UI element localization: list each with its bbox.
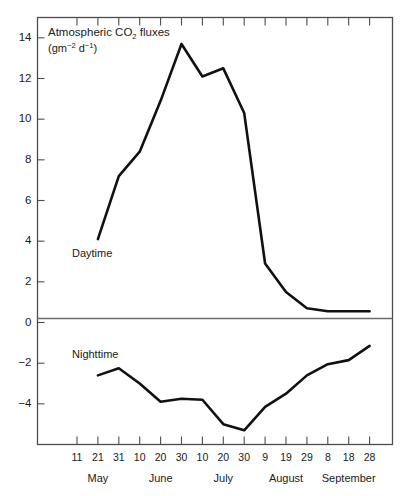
x-tick-label: 28 xyxy=(364,451,376,463)
co2-flux-line-chart: 1121311020301020309192981828 MayJuneJuly… xyxy=(0,0,414,496)
x-tick-label: 31 xyxy=(113,451,125,463)
y-axis-tick-labels: 14121086420−2−4 xyxy=(18,31,32,409)
x-month-label: August xyxy=(269,472,303,484)
y-tick-label: −4 xyxy=(18,397,32,409)
x-month-label: July xyxy=(214,472,234,484)
x-tick-label: 8 xyxy=(325,451,331,463)
x-tick-label: 18 xyxy=(343,451,355,463)
x-tick-label: 20 xyxy=(155,451,167,463)
y-tick-label: 2 xyxy=(25,275,31,287)
plot-frame xyxy=(38,18,393,445)
units-b: d xyxy=(76,42,85,54)
y-tick-label: 6 xyxy=(25,194,31,206)
x-tick-label: 10 xyxy=(197,451,209,463)
units-sup2: −1 xyxy=(85,41,94,50)
x-tick-label: 30 xyxy=(176,451,188,463)
x-month-label: September xyxy=(322,472,376,484)
series-line-daytime xyxy=(98,44,370,311)
y-tick-label: 8 xyxy=(25,153,31,165)
x-tick-label: 30 xyxy=(238,451,250,463)
x-month-label: June xyxy=(149,472,173,484)
y-tick-label: 10 xyxy=(19,112,32,124)
x-tick-label: 20 xyxy=(217,451,229,463)
y-tick-label: −2 xyxy=(18,356,31,368)
x-axis-tick-labels: 1121311020301020309192981828 xyxy=(72,451,376,463)
y-tick-label: 0 xyxy=(25,316,31,328)
y-tick-label: 12 xyxy=(19,72,32,84)
chart-axis-title: Atmospheric CO2 fluxes xyxy=(48,26,170,41)
x-tick-label: 9 xyxy=(262,451,268,463)
y-tick-label: 14 xyxy=(19,31,32,43)
x-month-label: May xyxy=(88,472,109,484)
x-axis-ticks xyxy=(77,18,370,445)
chart-figure: 1121311020301020309192981828 MayJuneJuly… xyxy=(0,0,414,496)
y-tick-label: 4 xyxy=(25,234,32,246)
series-label-nighttime: Nighttime xyxy=(72,348,118,360)
series-line-nighttime xyxy=(98,346,370,430)
x-tick-label: 21 xyxy=(92,451,104,463)
axis-title-after: fluxes xyxy=(137,26,170,38)
units-sup1: −2 xyxy=(67,41,76,50)
x-tick-label: 19 xyxy=(280,451,292,463)
x-tick-label: 29 xyxy=(301,451,313,463)
x-tick-label: 10 xyxy=(134,451,146,463)
units-c: ) xyxy=(93,42,97,54)
x-tick-label: 11 xyxy=(72,451,83,463)
series-label-daytime: Daytime xyxy=(72,247,112,259)
x-axis-month-labels: MayJuneJulyAugustSeptember xyxy=(88,472,376,484)
chart-axis-units: (gm−2 d−1) xyxy=(48,41,97,54)
y-axis-ticks xyxy=(38,38,45,404)
axis-title-before: Atmospheric CO xyxy=(48,26,132,38)
units-a: (gm xyxy=(48,42,67,54)
